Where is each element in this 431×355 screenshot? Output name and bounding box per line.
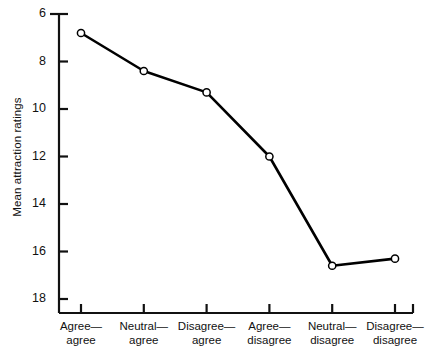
data-point-marker (391, 255, 398, 262)
series-line-path (81, 33, 395, 266)
data-point-marker (140, 67, 147, 74)
y-axis-tick-label: 8 (20, 55, 46, 68)
y-axis-tick-label: 12 (20, 150, 46, 163)
data-point-marker (203, 89, 210, 96)
y-axis-tick-label: 14 (20, 197, 46, 210)
data-point-marker (266, 153, 273, 160)
y-axis-tick-label: 16 (20, 245, 46, 258)
y-axis-tick-label: 10 (20, 102, 46, 115)
y-axis-tick-label: 18 (20, 292, 46, 305)
chart-container: Mean attraction ratings 681012141618 Agr… (0, 0, 431, 355)
x-axis-tick-label-line2: disagree (352, 334, 431, 348)
data-point-marker (329, 262, 336, 269)
x-axis-tick-label-line1: Disagree— (352, 320, 431, 334)
x-axis-ticks (81, 304, 395, 313)
y-axis-tick-labels: 681012141618 (12, 0, 46, 355)
y-axis-tick-label: 6 (20, 7, 46, 20)
line-chart-plot (0, 0, 431, 355)
series-markers (77, 29, 398, 269)
data-point-marker (77, 29, 84, 36)
x-axis-tick-label: Disagree—disagree (352, 320, 431, 347)
y-axis-ticks (59, 14, 68, 299)
